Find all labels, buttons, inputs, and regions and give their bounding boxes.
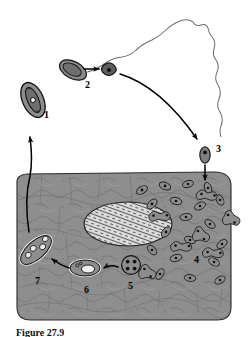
host-nucleus — [84, 202, 172, 246]
label-5: 5 — [128, 281, 133, 291]
host-tissue-block — [16, 172, 240, 320]
label-4: 4 — [194, 255, 199, 265]
label-1: 1 — [44, 110, 49, 120]
label-3: 3 — [216, 144, 221, 154]
arrow-stage2-to-stage3 — [120, 74, 197, 139]
stage-2-released-sporozoite — [102, 63, 117, 76]
label-2: 2 — [85, 80, 90, 90]
label-7: 7 — [35, 276, 40, 286]
stage-5-schizont — [122, 256, 141, 275]
figure-caption: Figure 27.9 — [16, 327, 64, 337]
stage-6-vacuolated-stage — [70, 260, 100, 276]
life-cycle-diagram — [0, 0, 248, 337]
host-outline — [84, 20, 222, 137]
stage-3-invading-cell — [200, 147, 210, 163]
label-6: 6 — [84, 285, 89, 295]
figure-container: 1 2 3 4 5 6 7 Figure 27.9 — [0, 0, 248, 337]
